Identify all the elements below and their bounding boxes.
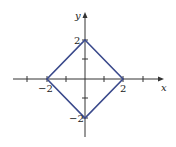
x-tick-label-neg2: −2 <box>38 83 53 94</box>
x-axis-label: x <box>161 82 167 93</box>
x-tick-label-pos2: 2 <box>120 83 126 94</box>
x-axis-arrow-icon <box>158 77 164 82</box>
y-tick-label-neg2: −2 <box>69 113 84 124</box>
y-axis-arrow-icon <box>83 12 88 18</box>
y-axis-label: y <box>74 10 81 21</box>
y-tick-label-pos2: 2 <box>74 35 80 46</box>
chart-canvas: y x −2 2 2 −2 <box>0 0 176 147</box>
